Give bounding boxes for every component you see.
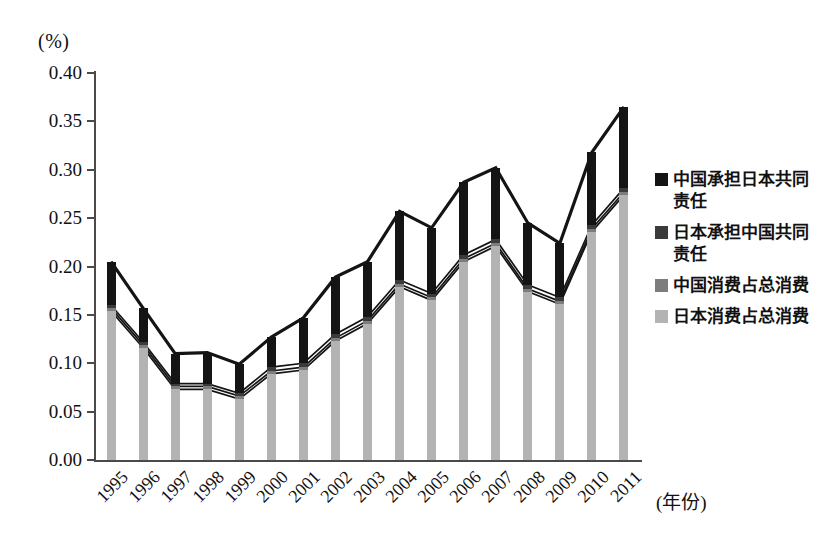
bar-segment bbox=[107, 305, 116, 308]
bar-segment bbox=[555, 243, 564, 297]
bar-segment bbox=[619, 188, 628, 192]
bar-segment bbox=[587, 232, 596, 460]
x-tick-label: 1997 bbox=[157, 466, 197, 506]
bar-group[interactable] bbox=[619, 73, 628, 460]
bar-segment bbox=[427, 294, 436, 298]
bar-segment bbox=[395, 280, 404, 284]
bar-segment bbox=[171, 386, 180, 389]
bar-group[interactable] bbox=[395, 73, 404, 460]
bar-group[interactable] bbox=[427, 73, 436, 460]
bar-segment bbox=[139, 342, 148, 345]
x-tick-label: 2011 bbox=[607, 466, 646, 505]
bar-group[interactable] bbox=[107, 73, 116, 460]
bar-segment bbox=[587, 229, 596, 232]
bar-segment bbox=[235, 399, 244, 460]
bar-segment bbox=[459, 259, 468, 262]
bar-segment bbox=[331, 334, 340, 338]
legend-item-label: 日本承担中国共同责任 bbox=[673, 221, 825, 265]
bar-group[interactable] bbox=[235, 73, 244, 460]
bar-group[interactable] bbox=[523, 73, 532, 460]
y-tick-label: 0.00 bbox=[16, 450, 82, 469]
bar-segment bbox=[363, 321, 372, 324]
y-axis-ticks: 0.400.350.300.250.200.150.100.050.00 bbox=[0, 0, 95, 545]
y-tick-label: 0.35 bbox=[16, 111, 82, 130]
legend-swatch-icon bbox=[655, 173, 668, 186]
bar-segment bbox=[555, 297, 564, 301]
y-tick-label: 0.20 bbox=[16, 257, 82, 276]
bar-segment bbox=[427, 297, 436, 300]
bar-segment bbox=[619, 107, 628, 188]
bar-group[interactable] bbox=[459, 73, 468, 460]
y-tick-label: 0.40 bbox=[16, 63, 82, 82]
x-tick-label: 1998 bbox=[189, 466, 229, 506]
bar-group[interactable] bbox=[139, 73, 148, 460]
bar-segment bbox=[107, 262, 116, 306]
bar-segment bbox=[459, 182, 468, 255]
bar-segment bbox=[523, 285, 532, 289]
bar-group[interactable] bbox=[587, 73, 596, 460]
plot-area bbox=[95, 73, 640, 460]
bar-segment bbox=[171, 384, 180, 387]
bar-segment bbox=[203, 384, 212, 387]
x-tick-label: 2000 bbox=[253, 466, 293, 506]
bar-segment bbox=[203, 353, 212, 384]
legend-item-label: 日本消费占总消费 bbox=[673, 305, 825, 327]
bar-group[interactable] bbox=[331, 73, 340, 460]
chart-figure: (%) 0.400.350.300.250.200.150.100.050.00… bbox=[0, 0, 834, 545]
bar-segment bbox=[619, 195, 628, 460]
legend-item[interactable]: 中国承担日本共同责任 bbox=[655, 168, 830, 212]
bar-segment bbox=[203, 389, 212, 460]
bar-segment bbox=[139, 348, 148, 460]
x-tick-label: 1995 bbox=[93, 466, 133, 506]
bar-segment bbox=[555, 304, 564, 460]
legend-swatch-icon bbox=[655, 279, 668, 292]
bar-group[interactable] bbox=[363, 73, 372, 460]
bar-segment bbox=[491, 168, 500, 240]
x-axis-title: (年份) bbox=[656, 487, 707, 514]
legend-item-label: 中国承担日本共同责任 bbox=[673, 168, 825, 212]
bar-segment bbox=[107, 308, 116, 311]
bar-segment bbox=[203, 386, 212, 389]
x-tick-label: 2007 bbox=[478, 466, 518, 506]
y-tick-label: 0.15 bbox=[16, 305, 82, 324]
bar-group[interactable] bbox=[203, 73, 212, 460]
bar-segment bbox=[363, 324, 372, 460]
bar-group[interactable] bbox=[299, 73, 308, 460]
bar-segment bbox=[459, 262, 468, 460]
legend-item[interactable]: 日本消费占总消费 bbox=[655, 305, 830, 327]
bar-segment bbox=[267, 337, 276, 367]
bar-segment bbox=[139, 308, 148, 342]
bar-segment bbox=[235, 396, 244, 399]
bar-segment bbox=[267, 367, 276, 371]
bar-segment bbox=[523, 223, 532, 285]
bar-segment bbox=[555, 301, 564, 304]
x-tick-label: 2003 bbox=[350, 466, 390, 506]
bar-group[interactable] bbox=[555, 73, 564, 460]
bar-segment bbox=[331, 341, 340, 460]
bar-segment bbox=[331, 277, 340, 334]
bar-group[interactable] bbox=[491, 73, 500, 460]
x-tick-label: 1999 bbox=[221, 466, 261, 506]
y-tick-label: 0.10 bbox=[16, 353, 82, 372]
y-tick-label: 0.05 bbox=[16, 402, 82, 421]
x-tick-label: 2009 bbox=[542, 466, 582, 506]
x-tick-label: 2005 bbox=[414, 466, 454, 506]
y-tick-label: 0.25 bbox=[16, 208, 82, 227]
bar-segment bbox=[395, 211, 404, 280]
y-tick-label: 0.30 bbox=[16, 160, 82, 179]
legend-swatch-icon bbox=[655, 310, 668, 323]
bar-segment bbox=[587, 225, 596, 229]
legend-item[interactable]: 日本承担中国共同责任 bbox=[655, 221, 830, 265]
x-tick-label: 2002 bbox=[318, 466, 358, 506]
bar-segment bbox=[587, 152, 596, 225]
bar-segment bbox=[395, 287, 404, 460]
legend-item[interactable]: 中国消费占总消费 bbox=[655, 274, 830, 296]
bar-segment bbox=[171, 389, 180, 460]
bar-segment bbox=[267, 374, 276, 460]
bar-segment bbox=[523, 289, 532, 292]
x-tick-label: 2008 bbox=[510, 466, 550, 506]
bar-group[interactable] bbox=[267, 73, 276, 460]
bar-group[interactable] bbox=[171, 73, 180, 460]
bar-segment bbox=[299, 370, 308, 460]
bar-segment bbox=[331, 338, 340, 341]
